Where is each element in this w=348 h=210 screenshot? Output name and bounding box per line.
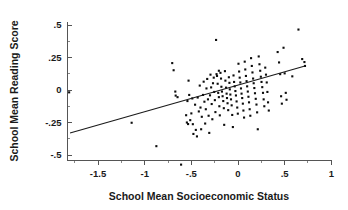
y-tick-label: 0 (56, 84, 61, 95)
y-tick-label: -.5 (50, 149, 62, 160)
data-point (199, 107, 201, 109)
data-point (229, 88, 231, 90)
data-point (262, 92, 264, 94)
data-point (171, 62, 173, 64)
data-point (214, 111, 216, 113)
data-point (131, 122, 133, 124)
data-point (261, 86, 263, 88)
data-point (235, 94, 237, 96)
data-point (228, 76, 230, 78)
data-point (264, 67, 266, 69)
data-point (205, 108, 207, 110)
x-tick-label: 1 (329, 168, 335, 179)
data-point (188, 80, 190, 82)
y-tick-label: .5 (54, 19, 63, 30)
data-point (239, 77, 241, 79)
data-point (247, 91, 249, 93)
y-tick-label: .25 (48, 52, 62, 63)
data-point (224, 70, 226, 72)
data-point (227, 102, 229, 104)
data-point (236, 107, 238, 109)
data-point (280, 95, 282, 97)
data-point (176, 96, 178, 98)
data-point (278, 61, 280, 63)
data-point (174, 91, 176, 93)
data-point (207, 98, 209, 100)
data-point (260, 81, 262, 83)
data-point (218, 96, 220, 98)
data-point (263, 105, 265, 107)
data-point (265, 74, 267, 76)
data-point (215, 39, 217, 41)
axes-group (68, 22, 332, 165)
x-tick-label: .5 (281, 168, 290, 179)
data-point (252, 78, 254, 80)
x-tick-label: 0 (235, 168, 240, 179)
data-point (211, 103, 213, 105)
data-point (242, 109, 244, 111)
data-point (232, 74, 234, 76)
data-point (267, 101, 269, 103)
data-points-group (68, 29, 306, 166)
data-point (248, 101, 250, 103)
data-point (217, 92, 219, 94)
data-point (233, 81, 235, 83)
data-point (285, 92, 287, 94)
data-point (189, 119, 191, 121)
data-point (237, 63, 239, 65)
data-point (196, 135, 198, 137)
data-point (224, 80, 226, 82)
plot-canvas: .5.250-.25-.5-1.5-1-.50.51 School Mean S… (0, 0, 348, 210)
data-point (234, 90, 236, 92)
data-point (237, 113, 239, 115)
data-point (68, 91, 70, 93)
data-point (241, 97, 243, 99)
data-point (251, 71, 253, 73)
data-point (190, 112, 192, 114)
data-point (219, 72, 221, 74)
data-point (268, 109, 270, 111)
scatter-plot-figure: .5.250-.25-.5-1.5-1-.50.51 School Mean S… (0, 0, 348, 210)
data-point (212, 82, 214, 84)
data-point (220, 78, 222, 80)
data-point (213, 77, 215, 79)
data-point (206, 78, 208, 80)
x-tick-label: -1.5 (90, 168, 107, 179)
data-point (249, 115, 251, 117)
data-point (242, 103, 244, 105)
data-point (155, 145, 157, 147)
data-point (229, 94, 231, 96)
data-point (260, 76, 262, 78)
data-point (201, 116, 203, 118)
data-point (232, 126, 234, 128)
data-point (195, 129, 197, 131)
data-point (223, 124, 225, 126)
data-point (218, 70, 220, 72)
data-point (284, 72, 286, 74)
data-point (192, 123, 194, 125)
data-point (226, 93, 228, 95)
data-point (222, 95, 224, 97)
data-point (239, 81, 241, 83)
data-point (217, 83, 219, 85)
data-point (214, 99, 216, 101)
data-point (219, 114, 221, 116)
data-point (192, 133, 194, 135)
data-point (228, 82, 230, 84)
data-point (254, 92, 256, 94)
data-point (253, 82, 255, 84)
x-axis-title: School Mean Socioeconomic Status (109, 190, 289, 202)
data-point (301, 58, 303, 60)
data-point (175, 95, 177, 97)
y-axis-title: School Mean Reading Score (8, 20, 20, 161)
data-point (208, 115, 210, 117)
data-point (257, 128, 259, 130)
data-point (231, 114, 233, 116)
data-point (220, 86, 222, 88)
data-point (231, 104, 233, 106)
data-point (185, 114, 187, 116)
data-point (173, 69, 175, 71)
data-point (291, 75, 293, 77)
data-point (297, 29, 299, 31)
data-point (198, 110, 200, 112)
